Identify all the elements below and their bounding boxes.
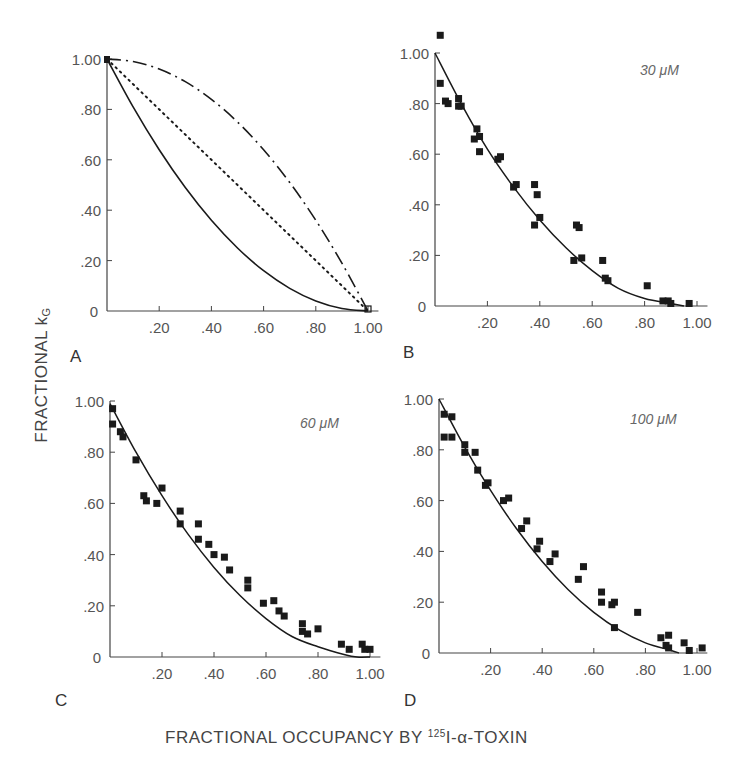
data-point	[346, 646, 353, 653]
data-point	[523, 517, 530, 524]
data-point	[195, 536, 202, 543]
y-tick-label: .20	[80, 253, 101, 270]
panel-d: 0.20.40.60.801.00.20.40.60.801.00D100 μM	[404, 391, 712, 710]
concentration-label: 100 μM	[630, 411, 677, 427]
data-point	[518, 525, 525, 532]
panel-letter: A	[70, 347, 82, 366]
y-tick-label: .80	[412, 442, 433, 459]
x-tick-label: .20	[477, 314, 498, 331]
data-point	[667, 300, 674, 307]
data-point	[598, 589, 605, 596]
fit-curve	[439, 399, 679, 653]
y-tick-label: .20	[408, 247, 429, 264]
data-point	[552, 550, 559, 557]
x-tick-label: 1.00	[353, 319, 382, 336]
x-tick-label: .80	[308, 665, 329, 682]
y-tick-label: 0	[422, 645, 430, 662]
x-tick-label: .80	[635, 661, 656, 678]
data-point	[546, 558, 553, 565]
y-tick-label: .60	[408, 146, 429, 163]
y-axis-title: FRACTIONAL kG	[32, 307, 52, 442]
x-axis-title-superscript: 125	[428, 728, 446, 739]
data-point	[367, 646, 374, 653]
y-tick-label: .80	[408, 96, 429, 113]
data-point	[575, 576, 582, 583]
data-point	[221, 554, 228, 561]
y-tick-label: .80	[80, 101, 101, 118]
data-point	[338, 641, 345, 648]
data-point	[611, 599, 618, 606]
data-point	[244, 584, 251, 591]
y-axis-title-text: FRACTIONAL k	[32, 316, 51, 442]
data-point	[699, 644, 706, 651]
y-tick-label: .40	[408, 197, 429, 214]
y-tick-label: 1.00	[72, 51, 101, 68]
panel-letter: D	[404, 691, 416, 710]
data-point	[448, 434, 455, 441]
data-point	[299, 620, 306, 627]
data-point	[474, 467, 481, 474]
x-tick-label: .60	[583, 661, 604, 678]
data-point	[472, 449, 479, 456]
y-tick-label: .20	[412, 594, 433, 611]
data-point	[576, 224, 583, 231]
data-point	[153, 500, 160, 507]
data-point	[497, 153, 504, 160]
data-point	[244, 577, 251, 584]
data-point	[681, 639, 688, 646]
data-point	[461, 449, 468, 456]
data-point	[195, 520, 202, 527]
x-axis-title-suffix: I-α-TOXIN	[446, 728, 528, 747]
y-tick-label: 0	[93, 649, 101, 666]
data-point	[665, 644, 672, 651]
data-point	[281, 613, 288, 620]
data-point	[644, 282, 651, 289]
data-point	[120, 433, 127, 440]
data-point	[534, 545, 541, 552]
data-point	[177, 520, 184, 527]
x-axis-title-text: FRACTIONAL OCCUPANCY BY	[165, 728, 428, 747]
x-tick-label: .40	[204, 665, 225, 682]
axes: 0.20.40.60.801.00.20.40.60.801.00	[72, 51, 383, 336]
data-point	[205, 541, 212, 548]
x-tick-label: .80	[305, 319, 326, 336]
y-tick-label: .80	[83, 444, 104, 461]
data-point	[534, 191, 541, 198]
axes: 0.20.40.60.801.00.20.40.60.801.00	[400, 45, 712, 331]
data-point	[437, 32, 444, 39]
data-point	[448, 413, 455, 420]
data-point	[578, 254, 585, 261]
data-point	[473, 125, 480, 132]
x-tick-label: .40	[201, 319, 222, 336]
x-tick-label: 1.00	[682, 661, 711, 678]
data-point	[441, 411, 448, 418]
y-tick-label: 1.00	[404, 391, 433, 408]
endpoint-marker	[104, 56, 110, 63]
data-point	[476, 148, 483, 155]
y-tick-label: 1.00	[400, 45, 429, 62]
data-point	[133, 456, 140, 463]
data-point	[476, 133, 483, 140]
panel-letter: B	[403, 343, 414, 362]
data-point	[143, 497, 150, 504]
y-tick-label: 0	[90, 303, 98, 320]
data-points	[109, 405, 373, 653]
x-tick-label: .60	[582, 314, 603, 331]
data-point	[441, 434, 448, 441]
y-tick-label: 1.00	[75, 393, 104, 410]
data-point	[109, 405, 116, 412]
x-tick-label: .20	[152, 665, 173, 682]
data-points	[441, 411, 706, 654]
data-point	[686, 300, 693, 307]
panel-a: 0.20.40.60.801.00.20.40.60.801.00A	[70, 51, 383, 366]
data-point	[211, 551, 218, 558]
panel-c: 0.20.40.60.801.00.20.40.60.801.00C60 μM	[55, 393, 385, 710]
data-point	[604, 277, 611, 284]
y-tick-label: .20	[83, 598, 104, 615]
data-point	[455, 95, 462, 102]
data-point	[461, 441, 468, 448]
data-point	[315, 625, 322, 632]
x-axis-title: FRACTIONAL OCCUPANCY BY 125I-α-TOXIN	[165, 728, 528, 748]
panel-b: 0.20.40.60.801.00.20.40.60.801.00B30 μM	[400, 32, 712, 362]
data-point	[531, 222, 538, 229]
